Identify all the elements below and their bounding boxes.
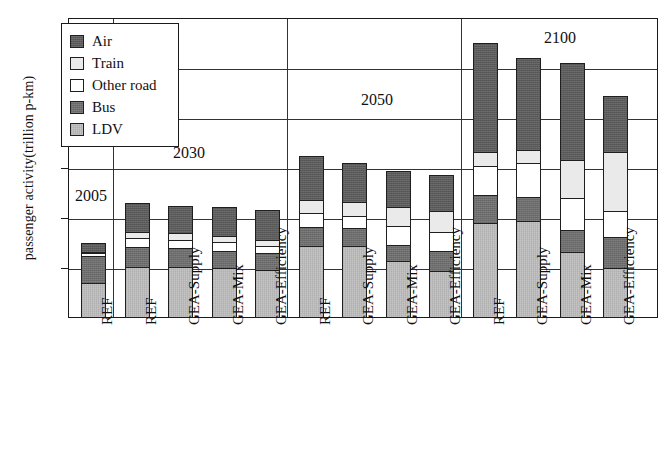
x-axis-label: GEA-Efficiency bbox=[273, 205, 289, 325]
x-axis-label: REF bbox=[99, 205, 115, 325]
x-axis-label: GEA-Efficiency bbox=[621, 205, 637, 325]
bar-segment-other bbox=[473, 166, 498, 196]
x-axis-label: GEA-Supply bbox=[534, 205, 550, 325]
bar-segment-other bbox=[516, 163, 541, 198]
legend-swatch-other bbox=[70, 79, 84, 92]
x-axis-label: REF bbox=[143, 205, 159, 325]
bar-segment-air bbox=[342, 163, 367, 203]
bar-segment-air bbox=[516, 58, 541, 151]
legend: AirTrainOther roadBusLDV bbox=[61, 23, 179, 147]
y-axis-tick-mark bbox=[61, 268, 68, 269]
bar-segment-air bbox=[299, 156, 324, 201]
legend-label: Bus bbox=[92, 99, 115, 116]
legend-label: Air bbox=[92, 33, 112, 50]
legend-swatch-air bbox=[70, 35, 84, 48]
era-label-2030: 2030 bbox=[173, 144, 205, 162]
bar-segment-train bbox=[603, 152, 628, 212]
legend-label: LDV bbox=[92, 121, 123, 138]
x-axis-label: GEA-Supply bbox=[186, 205, 202, 325]
legend-item-ldv: LDV bbox=[70, 118, 171, 140]
legend-swatch-ldv bbox=[70, 123, 84, 136]
legend-swatch-bus bbox=[70, 101, 84, 114]
era-label-2050: 2050 bbox=[361, 91, 393, 109]
legend-item-other: Other road bbox=[70, 74, 171, 96]
y-axis-title: passenger activity(trillion p-km) bbox=[21, 43, 37, 293]
legend-item-air: Air bbox=[70, 30, 171, 52]
era-label-2005: 2005 bbox=[75, 187, 107, 205]
era-label-2100: 2100 bbox=[544, 29, 576, 47]
legend-item-train: Train bbox=[70, 52, 171, 74]
legend-label: Other road bbox=[92, 77, 157, 94]
bar-segment-train bbox=[560, 160, 585, 200]
bar-segment-air bbox=[603, 96, 628, 154]
x-axis-label: GEA-Efficiency bbox=[447, 205, 463, 325]
x-axis-label: GEA-Supply bbox=[360, 205, 376, 325]
chart-root: passenger activity(trillion p-km) 120100… bbox=[0, 0, 669, 451]
legend-item-bus: Bus bbox=[70, 96, 171, 118]
legend-label: Train bbox=[92, 55, 124, 72]
bar-segment-air bbox=[386, 171, 411, 209]
x-axis-label: REF bbox=[491, 205, 507, 325]
bar-segment-air bbox=[473, 43, 498, 153]
legend-swatch-train bbox=[70, 57, 84, 70]
bar-segment-air bbox=[560, 63, 585, 161]
x-axis-label: GEA-Mix bbox=[230, 205, 246, 325]
y-axis-tick-mark bbox=[61, 218, 68, 219]
x-axis-label: REF bbox=[317, 205, 333, 325]
x-axis-label: GEA-Mix bbox=[578, 205, 594, 325]
y-axis-tick-mark bbox=[61, 168, 68, 169]
x-axis-label: GEA-Mix bbox=[404, 205, 420, 325]
